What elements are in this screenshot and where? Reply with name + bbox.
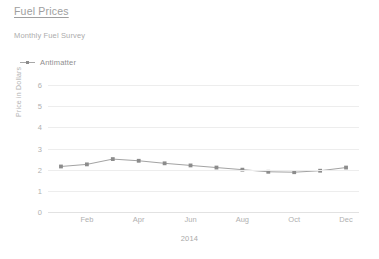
- y-axis-tick-label: 2: [20, 165, 42, 174]
- x-axis-tick-label: Aug: [236, 215, 249, 224]
- chart-legend: Antimatter: [20, 58, 76, 67]
- x-axis-tick-label: Dec: [339, 215, 352, 224]
- fuel-prices-chart-card: Fuel Prices Monthly Fuel Survey Antimatt…: [0, 0, 379, 259]
- plot-area: [48, 85, 359, 212]
- data-point-marker[interactable]: [292, 170, 296, 174]
- gridline: [48, 170, 359, 171]
- y-axis-tick-label: 0: [20, 208, 42, 217]
- x-axis-title: 2014: [0, 234, 379, 243]
- data-point-marker[interactable]: [163, 161, 167, 165]
- y-axis-tick-labels: 0123456: [18, 85, 42, 212]
- y-axis-tick-label: 5: [20, 102, 42, 111]
- x-axis-tick-labels: FebAprJunAugOctDec: [48, 215, 359, 229]
- page-title: Fuel Prices: [14, 5, 69, 17]
- y-axis-tick-label: 6: [20, 81, 42, 90]
- gridline: [48, 106, 359, 107]
- y-axis-tick-label: 1: [20, 186, 42, 195]
- gridline: [48, 149, 359, 150]
- x-axis-tick-label: Feb: [80, 215, 93, 224]
- x-axis-tick-label: Apr: [133, 215, 145, 224]
- data-point-marker[interactable]: [137, 159, 141, 163]
- y-axis-tick-label: 4: [20, 123, 42, 132]
- data-point-marker[interactable]: [85, 162, 89, 166]
- line-marker-icon: [20, 59, 35, 66]
- data-point-marker[interactable]: [111, 157, 115, 161]
- gridline: [48, 191, 359, 192]
- data-point-marker[interactable]: [59, 165, 63, 169]
- data-point-marker[interactable]: [189, 164, 193, 168]
- x-axis-tick-label: Jun: [184, 215, 196, 224]
- legend-item-label: Antimatter: [40, 58, 76, 67]
- gridline: [48, 127, 359, 128]
- x-axis-tick-label: Oct: [288, 215, 300, 224]
- legend-item-antimatter[interactable]: Antimatter: [20, 58, 76, 67]
- chart-subtitle: Monthly Fuel Survey: [14, 31, 85, 40]
- x-axis-line: [48, 212, 359, 213]
- y-axis-tick-label: 3: [20, 144, 42, 153]
- gridline: [48, 85, 359, 86]
